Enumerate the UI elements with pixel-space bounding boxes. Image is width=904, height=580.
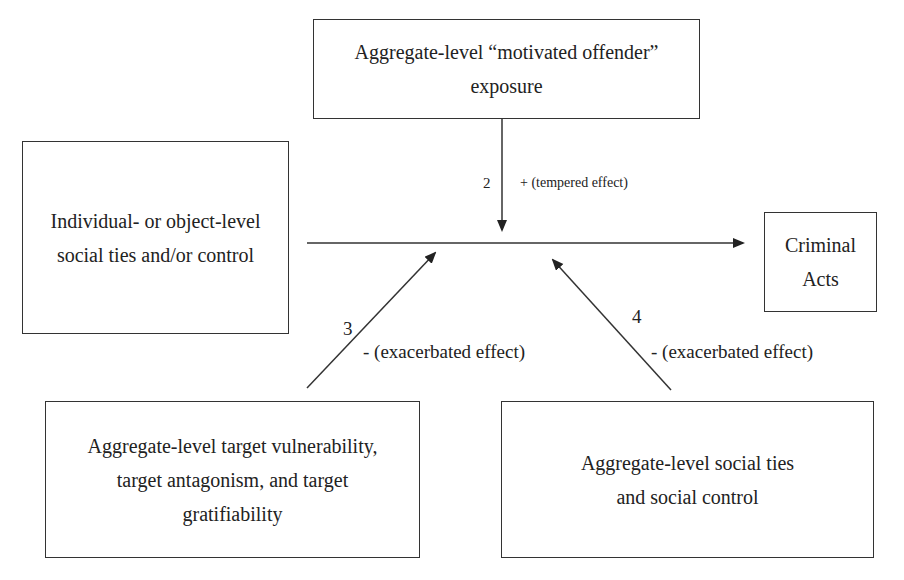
node-text: exposure bbox=[470, 69, 542, 103]
moderator-2-number: 2 bbox=[483, 175, 491, 192]
node-text: gratifiability bbox=[183, 497, 283, 531]
node-text: Aggregate-level “motivated offender” bbox=[355, 35, 659, 69]
moderator-3-number: 3 bbox=[343, 318, 353, 340]
moderator-4-effect: - (exacerbated effect) bbox=[651, 341, 813, 363]
node-text: Individual- or object-level bbox=[51, 204, 261, 238]
node-text: social ties and/or control bbox=[57, 238, 254, 272]
moderator-3-effect: - (exacerbated effect) bbox=[363, 341, 525, 363]
node-criminal-acts: Criminal Acts bbox=[764, 212, 877, 312]
moderator-4-arrow bbox=[553, 260, 671, 390]
node-text: and social control bbox=[616, 480, 758, 514]
node-text: Criminal bbox=[785, 228, 856, 262]
node-individual-ties: Individual- or object-level social ties … bbox=[22, 141, 289, 334]
node-target-vulnerability: Aggregate-level target vulnerability, ta… bbox=[45, 401, 420, 558]
moderator-2-effect: + (tempered effect) bbox=[520, 175, 628, 191]
node-aggregate-ties: Aggregate-level social ties and social c… bbox=[501, 401, 874, 558]
node-text: Acts bbox=[802, 262, 839, 296]
node-text: Aggregate-level social ties bbox=[581, 446, 794, 480]
node-text: Aggregate-level target vulnerability, bbox=[88, 429, 378, 463]
moderator-4-number: 4 bbox=[632, 306, 642, 328]
node-text: target antagonism, and target bbox=[117, 463, 348, 497]
moderator-3-arrow bbox=[307, 253, 435, 388]
node-motivated-offender: Aggregate-level “motivated offender” exp… bbox=[313, 19, 700, 119]
